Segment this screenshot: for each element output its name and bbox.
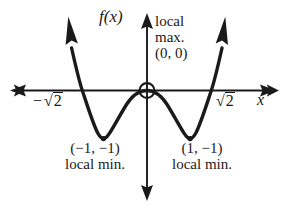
x-tick-label-pos-sqrt2: √2 [215, 92, 235, 110]
local-max-line-2: max. [155, 30, 188, 46]
curve-left-branch-arrowhead [66, 17, 78, 46]
local-min-left-annotation: (−1, −1) local min. [43, 141, 147, 173]
y-axis-label: f(x) [99, 8, 123, 26]
minus-sign: − [33, 93, 42, 110]
radicand-neg: 2 [53, 92, 63, 110]
x-axis-label: x [257, 92, 264, 109]
local-min-right-annotation: (1, −1) local min. [152, 141, 252, 173]
local-min-left-coords: (−1, −1) [43, 141, 147, 157]
local-max-annotation: local max. (0, 0) [155, 14, 188, 62]
local-min-left-caption: local min. [43, 157, 147, 173]
radical-icon: √2 [43, 92, 63, 110]
function-graph-figure: f(x) x local max. (0, 0) −√2 √2 (−1, −1)… [0, 0, 287, 207]
local-min-right-caption: local min. [152, 157, 252, 173]
x-tick-label-neg-sqrt2: −√2 [33, 92, 63, 110]
curve-right-branch-arrowhead [216, 17, 228, 46]
local-max-line-3: (0, 0) [155, 46, 188, 62]
radical-icon: √2 [215, 92, 235, 110]
local-min-right-coords: (1, −1) [152, 141, 252, 157]
radicand-pos: 2 [225, 92, 235, 110]
local-max-line-1: local [155, 14, 188, 30]
